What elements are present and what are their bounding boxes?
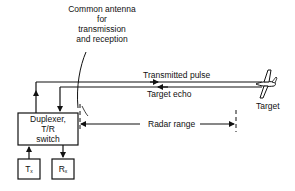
duplexer-label: Duplexer, T/R switch (18, 114, 78, 144)
aircraft-icon (256, 70, 277, 98)
rx-label: Rx (52, 164, 74, 176)
target-label: Target (256, 101, 280, 111)
radar-range-label: Radar range (148, 119, 195, 129)
transmitted-pulse-label: Transmitted pulse (143, 70, 210, 80)
antenna-pointer (77, 52, 86, 108)
tx-label: Tx (18, 164, 40, 176)
antenna-label: Common antenna for transmission and rece… (62, 4, 142, 44)
target-echo-label: Target echo (147, 89, 191, 99)
